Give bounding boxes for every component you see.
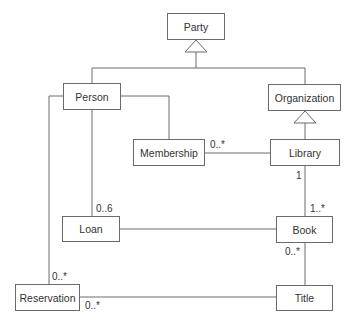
generalization-arrow-organization xyxy=(294,111,316,123)
multiplicity-reservation-title: 0..* xyxy=(85,300,100,311)
class-membership: Membership xyxy=(133,139,205,166)
multiplicity-library-end: 1 xyxy=(296,170,302,181)
multiplicity-book-end: 1..* xyxy=(310,203,325,214)
class-person: Person xyxy=(63,83,121,110)
class-reservation: Reservation xyxy=(15,284,80,311)
class-organization: Organization xyxy=(268,84,341,111)
class-library: Library xyxy=(270,139,340,166)
class-title: Title xyxy=(276,285,333,311)
class-party: Party xyxy=(167,13,225,40)
multiplicity-person-reservation: 0..* xyxy=(52,271,67,282)
multiplicity-membership-library: 0..* xyxy=(210,139,225,150)
multiplicity-book-title: 0..* xyxy=(285,246,300,257)
class-book: Book xyxy=(276,216,333,243)
generalization-arrow-party xyxy=(185,40,207,52)
class-loan: Loan xyxy=(62,216,120,242)
multiplicity-person-loan: 0..6 xyxy=(96,203,113,214)
